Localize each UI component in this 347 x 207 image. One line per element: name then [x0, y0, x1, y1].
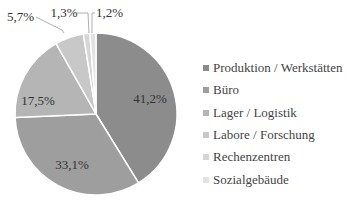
legend-swatch	[203, 154, 209, 160]
legend-item-sozialgebaeude: Sozialgebäude	[203, 168, 342, 190]
legend-label: Rechenzentren	[213, 149, 290, 165]
slice-label: 33,1%	[55, 157, 89, 172]
legend-label: Sozialgebäude	[213, 172, 289, 188]
pie-chart: 41,2%33,1%17,5%5,7%1,3%1,2%	[0, 0, 190, 207]
slice-label: 17,5%	[21, 93, 55, 108]
legend-item-lager: Lager / Logistik	[203, 102, 342, 124]
legend-swatch	[203, 132, 209, 138]
legend-label: Labore / Forschung	[213, 127, 315, 143]
legend-item-buero: Büro	[203, 79, 342, 101]
slice-label: 1,2%	[96, 5, 123, 20]
legend-item-produktion: Produktion / Werkstätten	[203, 57, 342, 79]
legend-item-labore: Labore / Forschung	[203, 124, 342, 146]
leader-line	[92, 13, 95, 33]
slice-label: 41,2%	[133, 91, 167, 106]
legend-label: Lager / Logistik	[213, 105, 297, 121]
legend-item-rechenzentren: Rechenzentren	[203, 146, 342, 168]
legend-swatch	[203, 65, 209, 71]
slice-label: 5,7%	[7, 9, 34, 24]
legend-swatch	[203, 177, 209, 183]
slice-label: 1,3%	[50, 5, 77, 20]
legend-label: Büro	[213, 82, 239, 98]
legend-label: Produktion / Werkstätten	[213, 60, 342, 76]
chart-legend: Produktion / Werkstätten Büro Lager / Lo…	[203, 57, 342, 191]
legend-swatch	[203, 87, 209, 93]
legend-swatch	[203, 110, 209, 116]
